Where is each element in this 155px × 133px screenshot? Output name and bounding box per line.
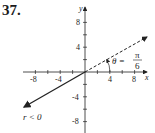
figure: 37. xyxy=(0,0,155,133)
ray-label: r < 0 xyxy=(23,112,42,122)
angle-label: θ = xyxy=(112,56,125,66)
y-tick-label: 4 xyxy=(76,43,80,52)
x-tick-label: -8 xyxy=(30,75,37,84)
y-tick-label: -4 xyxy=(72,93,79,102)
y-tick-label: -8 xyxy=(72,117,79,126)
x-axis-label: x xyxy=(144,73,149,82)
y-axis-label: y xyxy=(78,4,83,13)
x-tick-label: -4 xyxy=(55,75,62,84)
angle-denominator: 6 xyxy=(135,61,140,71)
y-tick-label: 8 xyxy=(76,18,80,27)
angle-numerator: π xyxy=(135,50,140,60)
polar-plot: -8 -4 4 8 x 8 4 -4 -8 y θ = π 6 r < 0 xyxy=(0,0,155,133)
x-tick-label: 4 xyxy=(108,75,112,84)
x-tick-label: 8 xyxy=(132,75,136,84)
